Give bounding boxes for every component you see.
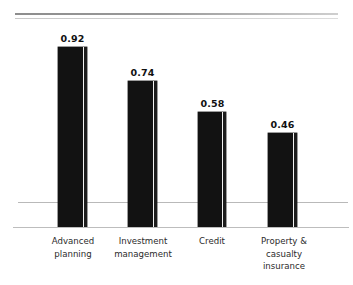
bar-investment-management: [128, 81, 157, 227]
bar-right-edge: [223, 112, 226, 227]
category-label-investment-management: Investment management: [104, 235, 182, 260]
value-label-property-casualty-insurance: 0.46: [260, 119, 305, 130]
category-label-advanced-planning: Advanced planning: [38, 235, 108, 260]
bar-property-casualty-insurance: [268, 133, 297, 227]
bar-highlight-stripe: [153, 81, 154, 227]
bar-right-edge: [154, 81, 157, 227]
bar-highlight-stripe: [293, 133, 294, 227]
axis-baseline: [13, 227, 349, 228]
bar-highlight-stripe: [222, 112, 223, 227]
bar-credit: [198, 112, 226, 227]
category-label-credit: Credit: [182, 235, 242, 248]
bar-right-edge: [294, 133, 297, 227]
value-label-credit: 0.58: [190, 98, 235, 109]
bar-advanced-planning: [58, 47, 87, 227]
bar-right-edge: [84, 47, 87, 227]
plot-area: 0.92 0.74 0.58 0.46 Advanced planning In…: [0, 0, 353, 285]
value-label-advanced-planning: 0.92: [50, 33, 95, 44]
category-label-property-casualty-insurance: Property & casualty insurance: [250, 235, 318, 273]
bar-chart-figure: 0.92 0.74 0.58 0.46 Advanced planning In…: [0, 0, 353, 285]
value-label-investment-management: 0.74: [120, 67, 165, 78]
bar-highlight-stripe: [83, 47, 84, 227]
